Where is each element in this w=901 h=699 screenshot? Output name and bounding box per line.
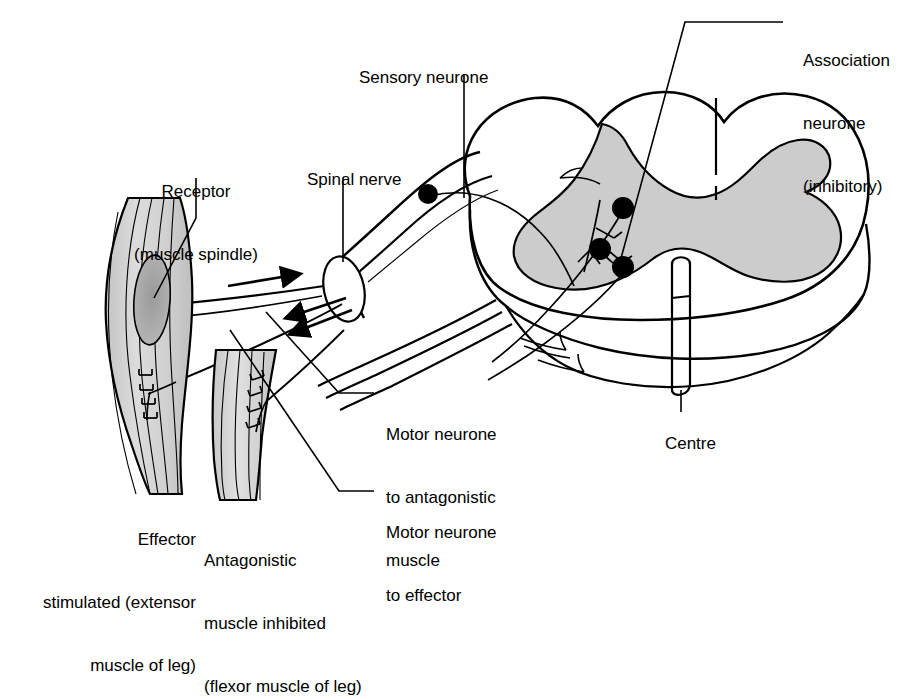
- label-antagonistic-line3: (flexor muscle of leg): [204, 676, 362, 697]
- label-sensory-neurone-text: Sensory neurone: [359, 68, 488, 87]
- label-effector-line1: Effector: [0, 529, 196, 550]
- label-association-neurone-line2: neurone: [803, 113, 890, 134]
- label-sensory-neurone: Sensory neurone: [340, 46, 488, 109]
- label-antagonistic-line2: muscle inhibited: [204, 613, 362, 634]
- label-motor-effector-line2: to effector: [386, 585, 497, 606]
- label-centre-text: Centre: [665, 434, 716, 453]
- label-motor-antagonistic-line1: Motor neurone: [386, 424, 497, 445]
- label-motor-effector: Motor neurone to effector: [386, 480, 497, 648]
- label-receptor-line1: Receptor: [96, 181, 296, 202]
- label-spinal-nerve: Spinal nerve: [288, 148, 401, 211]
- label-centre: Centre: [631, 412, 731, 475]
- label-effector: Effector stimulated (extensor muscle of …: [0, 487, 196, 699]
- label-association-neurone-line1: Association: [803, 50, 890, 71]
- sensory-neurone-cell-body: [418, 184, 438, 204]
- label-motor-effector-line1: Motor neurone: [386, 522, 497, 543]
- motor-neurone-cell-body-lower: [612, 256, 634, 278]
- label-antagonistic-line1: Antagonistic: [204, 550, 362, 571]
- label-association-neurone-line3: (inhibitory): [803, 176, 890, 197]
- motor-neurone-cell-body-upper: [589, 238, 611, 260]
- label-antagonistic-muscle: Antagonistic muscle inhibited (flexor mu…: [204, 508, 362, 699]
- label-effector-line3: muscle of leg): [0, 655, 196, 676]
- label-receptor-line2: (muscle spindle): [96, 244, 296, 265]
- label-association-neurone: Association neurone (inhibitory): [803, 8, 890, 239]
- association-neurone-cell-body: [612, 197, 634, 219]
- flexor-muscle-body: [213, 350, 276, 500]
- label-effector-line2: stimulated (extensor: [0, 592, 196, 613]
- label-receptor: Receptor (muscle spindle): [96, 139, 296, 307]
- label-spinal-nerve-text: Spinal nerve: [307, 170, 402, 189]
